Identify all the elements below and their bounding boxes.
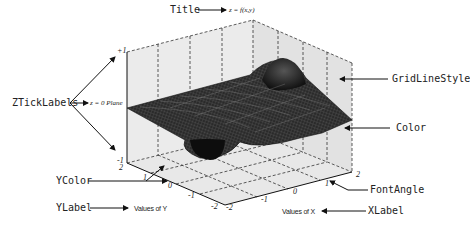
- surface-plot-diagram: Title ZTickLabels GridLineStyle Color YC…: [0, 0, 470, 225]
- font-angle-callout: FontAngle: [370, 184, 424, 196]
- y-tick: 0: [168, 181, 172, 190]
- y-axis-label: Values of Y: [134, 204, 167, 213]
- zero-plane-label: z = 0 Plane: [90, 99, 123, 108]
- grid-line-style-callout: GridLineStyle: [392, 73, 470, 85]
- x-tick: 0: [293, 187, 297, 196]
- y-tick: 2: [119, 163, 123, 172]
- xlabel-callout: XLabel: [368, 205, 404, 217]
- ycolor-callout: YColor: [56, 175, 92, 187]
- title-callout: Title: [170, 4, 200, 16]
- x-tick: -1: [261, 195, 268, 204]
- x-tick: 2: [356, 170, 360, 179]
- y-tick: -1: [188, 191, 195, 200]
- color-callout: Color: [396, 122, 426, 134]
- y-tick: 1: [143, 173, 147, 182]
- x-tick: -2: [226, 203, 233, 212]
- plot-title: z = f(x,y): [229, 6, 255, 15]
- ztick-labels-callout: ZTickLabels: [12, 97, 78, 109]
- x-tick: 1: [325, 179, 329, 188]
- z-tick-plus1: +1: [117, 46, 126, 55]
- ylabel-callout: YLabel: [56, 202, 92, 214]
- x-axis-label: Values of X: [282, 207, 315, 216]
- y-tick: -2: [211, 202, 218, 211]
